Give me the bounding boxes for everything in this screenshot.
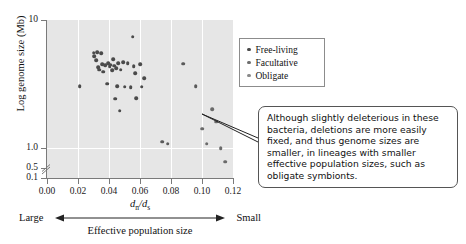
data-point — [138, 62, 142, 66]
data-point — [117, 62, 121, 66]
data-point — [95, 50, 99, 54]
x-axis-tick — [109, 179, 110, 184]
plot-area — [47, 20, 233, 178]
gridline-vertical — [109, 20, 110, 178]
x-axis-tick — [171, 179, 172, 184]
data-point — [121, 60, 125, 64]
y-axis-tick — [41, 148, 46, 149]
data-point — [133, 71, 137, 75]
y-axis-tick — [41, 178, 46, 179]
scatter-chart-figure: 101.00.50.1 0.000.020.040.060.080.100.12… — [0, 0, 466, 244]
y-axis-tick-label: 1.0 — [0, 143, 38, 153]
data-point — [94, 58, 98, 62]
legend-item-label: Facultative — [256, 58, 298, 68]
legend-item-label: Free-living — [256, 45, 298, 55]
data-point — [119, 68, 123, 72]
y-axis-title: Log genome size (Mb) — [15, 0, 26, 139]
x-axis-tick — [233, 179, 234, 184]
data-point — [166, 142, 170, 146]
data-point — [223, 160, 227, 164]
x-axis-tick-label: 0.12 — [213, 186, 253, 196]
data-point — [115, 66, 119, 70]
callout-annotation: Although slightly deleterious in these b… — [258, 106, 458, 188]
direction-arrow-row: Large Small — [19, 212, 261, 223]
data-point — [182, 62, 186, 66]
legend: Free-living Facultative Obligate — [239, 38, 325, 87]
data-point — [123, 85, 127, 89]
data-point — [160, 140, 164, 144]
data-point — [131, 35, 135, 39]
gridline-vertical — [140, 20, 141, 178]
data-point — [219, 146, 223, 150]
legend-item-label: Obligate — [256, 71, 289, 81]
x-axis-title: dn/ds — [47, 198, 233, 212]
axis-break-icon — [41, 162, 54, 175]
x-axis-tick — [78, 179, 79, 184]
data-point — [99, 52, 103, 56]
direction-label-small: Small — [236, 212, 261, 223]
data-point — [126, 61, 130, 65]
data-point — [101, 70, 105, 74]
data-point — [134, 96, 138, 100]
legend-item-obligate[interactable]: Obligate — [245, 69, 319, 82]
gridline-vertical — [78, 20, 79, 178]
legend-marker-icon — [247, 74, 251, 78]
legend-item-free-living[interactable]: Free-living — [245, 43, 319, 56]
data-point — [115, 84, 119, 88]
x-axis-tick — [140, 179, 141, 184]
gridline-horizontal — [47, 148, 233, 149]
effective-population-size-label: Effective population size — [47, 225, 233, 236]
gridline-vertical — [202, 20, 203, 178]
gridline-vertical — [171, 20, 172, 178]
y-axis-tick-label: 0.1 — [0, 173, 38, 183]
data-point — [132, 64, 136, 68]
data-point — [105, 82, 109, 86]
data-point — [143, 77, 147, 81]
direction-label-large: Large — [19, 212, 43, 223]
legend-marker-icon — [247, 48, 251, 52]
legend-item-facultative[interactable]: Facultative — [245, 56, 319, 69]
data-point — [118, 109, 122, 113]
y-axis-line — [46, 20, 47, 179]
data-point — [140, 85, 144, 89]
x-axis-tick — [202, 179, 203, 184]
data-point — [129, 85, 133, 89]
data-point — [78, 84, 82, 88]
x-axis-tick — [47, 179, 48, 184]
double-arrow-icon — [55, 213, 225, 223]
data-point — [194, 84, 198, 88]
data-point — [112, 57, 116, 61]
legend-marker-icon — [247, 61, 251, 65]
data-point — [110, 68, 114, 72]
data-point — [113, 97, 117, 101]
y-axis-tick — [41, 20, 46, 21]
